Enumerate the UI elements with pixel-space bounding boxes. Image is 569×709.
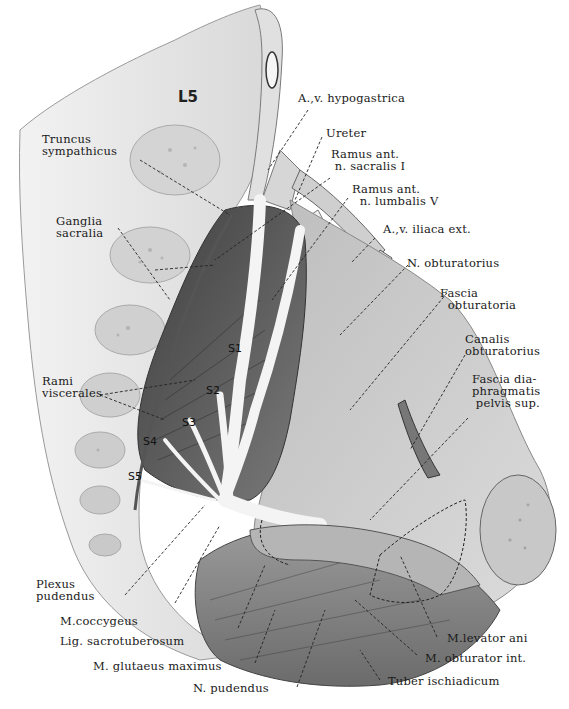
label-fascia-diaphragmatis: Fascia dia- phragmatis pelvis sup. xyxy=(472,373,540,409)
label-ganglia-sacralia: Ganglia sacralia xyxy=(56,215,103,239)
label-s5: S5 xyxy=(128,470,142,483)
label-s4: S4 xyxy=(143,435,157,448)
label-s3: S3 xyxy=(182,416,196,429)
label-l5: L5 xyxy=(178,88,198,106)
label-lig-sacrotuberosum: Lig. sacrotuberosum xyxy=(60,635,184,647)
label-plexus-pudendus: Plexus pudendus xyxy=(36,578,95,602)
label-m-glutaeus-maximus: M. glutaeus maximus xyxy=(93,660,222,672)
label-s2: S2 xyxy=(206,384,220,397)
label-iliaca-ext: A.,v. iliaca ext. xyxy=(383,223,471,235)
label-fascia-obturatoria: Fascia obturatoria xyxy=(440,287,516,311)
label-ramus-lumbalis: Ramus ant. n. lumbalis V xyxy=(352,183,438,207)
label-ramus-sacralis: Ramus ant. n. sacralis I xyxy=(331,148,405,172)
label-canalis-obturatorius: Canalis obturatorius xyxy=(465,333,540,357)
label-n-pudendus: N. pudendus xyxy=(193,682,269,694)
label-ureter: Ureter xyxy=(326,127,366,139)
label-m-levator-ani: M.levator ani xyxy=(447,632,528,644)
label-tuber-ischiadicum: Tuber ischiadicum xyxy=(388,675,500,687)
label-s1: S1 xyxy=(228,342,242,355)
label-m-coccygeus: M.coccygeus xyxy=(60,615,138,627)
label-rami-viscerales: Rami viscerales xyxy=(42,375,102,399)
label-a-v-hypogastrica: A.,v. hypogastrica xyxy=(298,92,405,104)
label-m-obturator-int: M. obturator int. xyxy=(425,652,526,664)
label-n-obturatorius: N. obturatorius xyxy=(407,257,499,269)
label-truncus-sympathicus: Truncus sympathicus xyxy=(42,133,117,157)
